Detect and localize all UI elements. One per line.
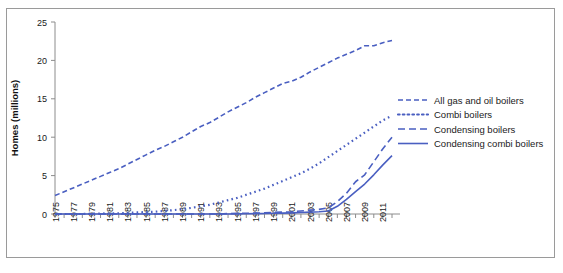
y-tick-label: 5 (42, 171, 47, 181)
x-tick-label: 1981 (105, 202, 115, 222)
x-tick-label: 1977 (69, 202, 79, 222)
series-line-1 (55, 116, 392, 214)
y-axis-title: Homes (millions) (9, 80, 20, 157)
x-tick-label: 1989 (178, 202, 188, 222)
x-tick-label: 2011 (378, 203, 388, 222)
y-tick-label: 20 (37, 56, 47, 66)
y-tick-label: 15 (37, 94, 47, 104)
legend-label-1: Combi boilers (434, 109, 492, 120)
x-tick-label: 1993 (214, 202, 224, 222)
x-tick-label: 2009 (360, 202, 370, 222)
x-tick-label: 1979 (87, 202, 97, 222)
y-tick-label: 10 (37, 133, 47, 143)
legend-label-2: Condensing boilers (434, 124, 516, 135)
chart-svg: 0510152025Homes (millions)19751977197919… (0, 0, 563, 273)
legend-label-0: All gas and oil boilers (434, 95, 524, 106)
x-tick-label: 1995 (233, 202, 243, 222)
y-tick-label: 25 (37, 18, 47, 28)
y-tick-label: 0 (42, 210, 47, 220)
x-tick-label: 1975 (51, 202, 61, 222)
series-line-0 (55, 40, 392, 195)
line-chart: 0510152025Homes (millions)19751977197919… (0, 0, 563, 273)
x-tick-label: 2007 (342, 202, 352, 222)
x-tick-label: 1997 (251, 202, 261, 222)
legend-label-3: Condensing combi boilers (434, 138, 544, 149)
